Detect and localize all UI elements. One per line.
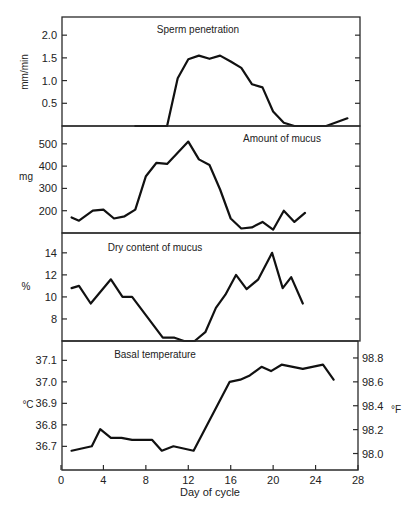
panel-amount-of-mucus: Amount of mucus mg 200300400500 [19,126,360,233]
y-tick-label: 300 [39,182,57,194]
y-tick-label-right: 98.6 [362,376,383,388]
x-ticks: 0481216202428 [58,465,364,486]
y-tick-label-right: 98.4 [362,400,383,412]
y-tick-label: 500 [39,138,57,150]
x-tick-label: 20 [267,474,279,486]
y-tick-label: 0.5 [42,97,57,109]
panel-dry-content-of-mucus: Dry content of mucus % 8101214 [22,233,360,341]
y-axis-label-fahrenheit: °F [391,404,401,415]
panel-title: Basal temperature [114,349,196,360]
y-tick-label: 37.0 [36,376,57,388]
y-tick-label: 36.7 [36,440,57,452]
y-tick-label: 12 [45,269,57,281]
y-axis-label: mg [19,171,33,182]
y-tick-label: 37.1 [36,354,57,366]
x-tick-label: 28 [352,474,364,486]
y-ticks-left: 200300400500 [39,138,67,217]
y-tick-label-right: 98.0 [362,448,383,460]
x-axis-label: Day of cycle [180,486,240,498]
panel-title: Dry content of mucus [108,242,202,253]
y-ticks-left: 0.51.01.52.0 [42,29,67,109]
data-line [72,365,334,451]
y-tick-label: 1.5 [42,52,57,64]
y-tick-label: 2.0 [42,29,57,41]
y-axis-label: % [22,281,31,292]
y-tick-label-right: 98.2 [362,424,383,436]
y-axis-label: mm/min [19,54,30,90]
y-tick-label: 36.8 [36,419,57,431]
x-tick-label: 0 [58,474,64,486]
panel-basal-temperature: Basal temperature °C °F 36.736.836.937.0… [22,341,401,486]
panel-title: Sperm penetration [157,24,239,35]
y-tick-label: 400 [39,160,57,172]
y-tick-label: 10 [45,291,57,303]
x-tick-label: 4 [100,474,106,486]
cervical-cycle-figure: Sperm penetration mm/min 0.51.01.52.0 Am… [0,0,419,518]
y-ticks-right [355,144,360,211]
panel-sperm-penetration: Sperm penetration mm/min 0.51.01.52.0 [19,17,360,126]
y-tick-label: 36.9 [36,397,57,409]
y-tick-label-right: 98.8 [362,352,383,364]
panel-frame [62,233,360,341]
y-tick-label: 1.0 [42,75,57,87]
y-ticks-right [355,35,360,103]
y-tick-label: 14 [45,247,57,259]
y-ticks-left: 8101214 [45,247,67,325]
panel-title: Amount of mucus [243,133,321,144]
x-tick-label: 16 [225,474,237,486]
data-line [72,253,303,341]
data-line [135,56,347,126]
panel-frame [62,341,358,470]
y-tick-label: 200 [39,205,57,217]
x-tick-label: 8 [143,474,149,486]
x-tick-label: 12 [182,474,194,486]
x-tick-label: 24 [309,474,321,486]
y-tick-label: 8 [51,313,57,325]
y-ticks-right [355,253,360,319]
data-line [72,142,305,230]
y-axis-label-celsius: °C [22,399,33,410]
